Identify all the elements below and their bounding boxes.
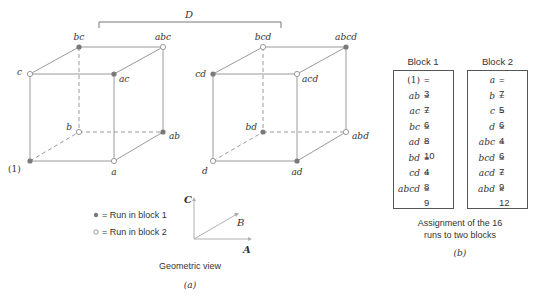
run-dot-block2	[343, 129, 348, 134]
right-cube-vertices	[210, 44, 348, 163]
left-cube-labels: (1) a b ab c ac bc abc	[8, 32, 180, 177]
legend-block2: = Run in block 2	[102, 227, 167, 237]
vertex-label: ab	[169, 131, 180, 141]
run-dot-block2	[160, 44, 165, 49]
vertex-label: (1)	[8, 164, 21, 174]
vertex-label: cd	[195, 69, 206, 79]
axis-c-label: C	[184, 194, 192, 205]
vertex-label: c	[17, 67, 22, 77]
run-dot-block2	[294, 71, 299, 76]
block1-title: Block 1	[393, 56, 453, 67]
vertex-label: bc	[74, 32, 85, 42]
vertex-label: bd	[245, 122, 257, 132]
d-bracket: D	[99, 9, 281, 28]
panel-a-tag: (a)	[170, 280, 210, 290]
run-dot-block2	[260, 44, 265, 49]
left-cube	[30, 47, 163, 161]
run-dot-block1	[111, 71, 116, 76]
run-dot-block1	[210, 71, 215, 76]
open-dot-icon	[94, 230, 98, 234]
run-dot-block1	[160, 129, 165, 134]
left-cube-vertices	[27, 44, 165, 163]
vertex-label: abc	[155, 32, 171, 42]
right-cube	[213, 47, 346, 161]
assignment-caption-line2: runs to two blocks	[400, 230, 520, 240]
run-dot-block1	[343, 44, 348, 49]
run-dot-block2	[210, 158, 215, 163]
vertex-label: a	[111, 167, 116, 177]
run-dot-block2	[111, 158, 116, 163]
run-dot-block2	[27, 71, 32, 76]
bracket-label: D	[184, 9, 193, 20]
run-dot-block1	[294, 158, 299, 163]
run-dot-block1	[27, 158, 32, 163]
vertex-label: d	[202, 166, 208, 176]
geometric-view-caption: Geometric view	[140, 261, 240, 271]
run-dot-block2	[76, 129, 81, 134]
run-dot-block1	[260, 129, 265, 134]
vertex-label: bcd	[255, 32, 272, 42]
vertex-label: b	[66, 122, 72, 132]
vertex-label: abcd	[335, 32, 357, 42]
panel-b-tag: (b)	[440, 248, 480, 258]
assignment-caption-line1: Assignment of the 16	[400, 218, 520, 228]
legend: = Run in block 1 = Run in block 2	[94, 210, 167, 237]
vertex-label: abd	[352, 131, 369, 141]
legend-block1: = Run in block 1	[102, 210, 167, 220]
axis-a-label: A	[242, 244, 251, 255]
axis-b-label: B	[236, 217, 244, 228]
vertex-label: ad	[291, 167, 302, 177]
vertex-label: acd	[302, 74, 318, 84]
vertex-label: ac	[119, 74, 129, 84]
right-cube-labels: d ad bd abd cd acd bcd abcd	[195, 32, 369, 177]
filled-dot-icon	[94, 213, 98, 217]
run-dot-block1	[76, 44, 81, 49]
block2-title: Block 2	[467, 56, 528, 67]
